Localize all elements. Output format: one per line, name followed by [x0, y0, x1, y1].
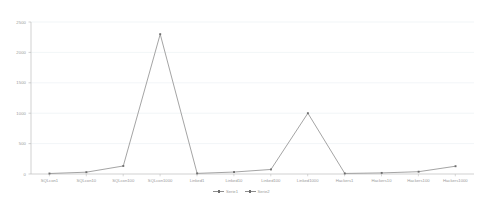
x-tick-label: SQLcon1000 [140, 178, 180, 183]
data-point-marker [381, 172, 383, 174]
data-point-marker [196, 172, 198, 174]
data-point-marker [159, 33, 161, 35]
line-chart: 2500 2000 1500 1000 500 0 SQLcon1 SQLcon… [0, 0, 483, 212]
x-tick-label: SQLcon10 [66, 178, 106, 183]
series-line-serie1 [49, 34, 455, 173]
data-point-marker [122, 165, 124, 167]
x-tick-label: Linked1 [177, 178, 217, 183]
y-tick-label: 1000 [4, 111, 26, 116]
data-point-marker [344, 173, 346, 175]
y-tick-label: 0 [4, 172, 26, 177]
data-point-marker [49, 173, 51, 175]
data-point-marker [418, 171, 420, 173]
x-tick-label: SQLcon100 [103, 178, 143, 183]
x-tick-label: Hackers100 [398, 178, 438, 183]
data-point-marker [85, 171, 87, 173]
legend-line-marker-icon [213, 190, 224, 194]
data-point-marker [233, 171, 235, 173]
legend-label: Serie1 [226, 189, 238, 194]
chart-legend: Serie1 Serie2 [0, 189, 483, 194]
y-tick-label: 500 [4, 141, 26, 146]
x-tick-label: Hackers10 [362, 178, 402, 183]
legend-item-serie1[interactable]: Serie1 [213, 189, 238, 194]
x-tick-label: Linked10 [214, 178, 254, 183]
legend-item-serie2[interactable]: Serie2 [245, 189, 270, 194]
data-point-marker [307, 112, 309, 114]
x-tick-label: Hackers1000 [435, 178, 475, 183]
gridlines [31, 22, 474, 144]
data-point-marker [455, 165, 457, 167]
y-tick-label: 1500 [4, 80, 26, 85]
x-tick-label: Linked100 [251, 178, 291, 183]
data-point-marker [270, 168, 272, 170]
y-axis-ticks [29, 22, 32, 174]
legend-label: Serie2 [258, 189, 270, 194]
series-markers-serie1 [49, 33, 457, 174]
x-tick-label: SQLcon1 [29, 178, 69, 183]
y-tick-label: 2000 [4, 50, 26, 55]
x-tick-label: Linked1000 [288, 178, 328, 183]
y-tick-label: 2500 [4, 20, 26, 25]
x-tick-label: Hackers1 [325, 178, 365, 183]
legend-line-marker-icon [245, 190, 256, 194]
